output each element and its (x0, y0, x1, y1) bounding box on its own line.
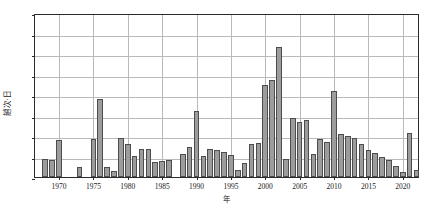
x-axis-ticks: 1970197519801985199019952000200520102015… (35, 15, 418, 177)
x-axis-tick-mark (265, 177, 266, 180)
x-axis-tick-mark (162, 177, 163, 180)
x-axis-tick-mark (93, 177, 94, 180)
x-axis-tick-mark (334, 177, 335, 180)
x-axis-title: 年 (34, 193, 419, 204)
bar-chart-figure: 趟次·日 0255075100125150175200 197019751980… (0, 0, 430, 206)
y-axis-tick-mark (32, 179, 35, 180)
y-axis-title: 趟次·日 (0, 0, 12, 206)
x-axis-tick-mark (231, 177, 232, 180)
x-axis-tick-mark (300, 177, 301, 180)
x-axis-tick-label: 2020 (383, 182, 423, 191)
x-axis-tick-mark (368, 177, 369, 180)
x-axis-tick-mark (403, 177, 404, 180)
x-axis-tick-mark (128, 177, 129, 180)
x-axis-tick-mark (59, 177, 60, 180)
x-axis-tick-mark (197, 177, 198, 180)
plot-area: 0255075100125150175200 19701975198019851… (34, 14, 419, 178)
